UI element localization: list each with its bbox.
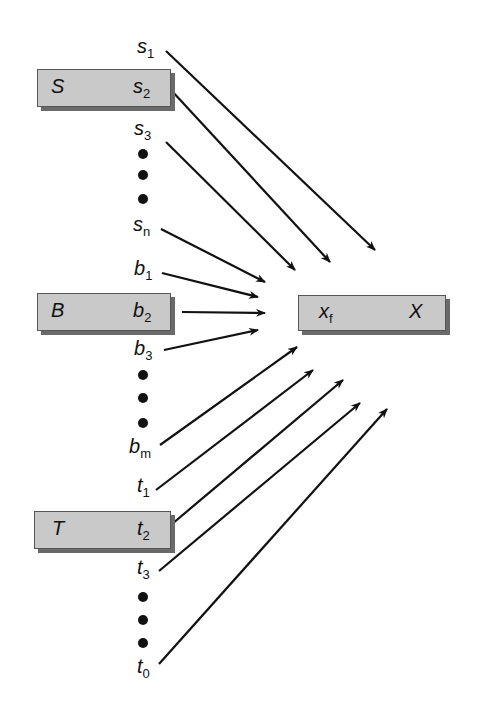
source-name-s: S	[51, 75, 64, 98]
arrow-s1	[166, 51, 375, 250]
label-s2: s2	[133, 75, 150, 101]
arrow-t0	[159, 409, 387, 664]
label-t3: t3	[137, 556, 150, 582]
arrow-t3	[159, 403, 360, 571]
source-name-b: B	[51, 299, 64, 322]
ellipsis-dot	[138, 370, 148, 380]
label-t1: t1	[137, 474, 150, 500]
arrow-b2	[182, 312, 265, 313]
label-b1: b1	[134, 257, 152, 283]
label-t0: t0	[137, 655, 150, 681]
ellipsis-dot	[138, 592, 148, 602]
arrow-s2	[171, 90, 330, 262]
label-s3: s3	[134, 117, 151, 143]
arrow-sn	[161, 229, 265, 282]
ellipsis-dot	[138, 149, 148, 159]
arrow-s3	[166, 142, 295, 270]
target-field-xf: xf	[319, 300, 333, 326]
label-bm: bm	[129, 435, 151, 461]
ellipsis-dot	[138, 418, 148, 428]
arrow-bm	[160, 347, 297, 445]
label-t2: t2	[137, 517, 150, 543]
arrow-t2	[172, 380, 343, 524]
arrow-b1	[162, 273, 258, 297]
label-s1: s1	[137, 35, 154, 61]
arrow-b3	[164, 330, 258, 350]
ellipsis-dot	[138, 393, 148, 403]
ellipsis-dot	[138, 170, 148, 180]
label-b3: b3	[134, 337, 152, 363]
source-name-t: T	[52, 517, 64, 540]
label-b2: b2	[133, 299, 151, 325]
ellipsis-dot	[138, 638, 148, 648]
ellipsis-dot	[138, 194, 148, 204]
target-name-x: X	[409, 300, 422, 323]
ellipsis-dot	[138, 615, 148, 625]
label-sn: sn	[133, 213, 150, 239]
